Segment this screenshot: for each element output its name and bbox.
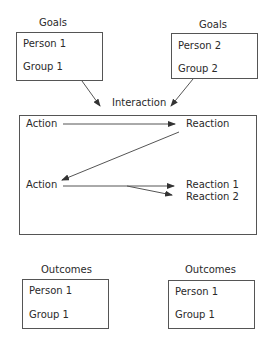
outcomes-box-2: Person 1 Group 1: [168, 280, 255, 329]
goals-1-line-1: Person 1: [23, 38, 66, 49]
goals-1-line-2: Group 1: [23, 61, 63, 72]
action-1: Action: [26, 118, 57, 129]
goals-2-line-1: Person 2: [178, 40, 221, 51]
action-2: Action: [26, 179, 57, 190]
goals-label-2: Goals: [199, 19, 227, 30]
outcomes-label-2: Outcomes: [185, 264, 236, 275]
goal1-arrow: [82, 81, 100, 106]
reaction: Reaction: [186, 118, 229, 129]
goals-box-2: Person 2 Group 2: [171, 33, 258, 79]
goal2-arrow: [171, 79, 193, 106]
reaction-2: Reaction 2: [186, 191, 239, 202]
goals-box-1: Person 1 Group 1: [16, 32, 103, 81]
goals-label-1: Goals: [39, 17, 67, 28]
outcomes-1-line-2: Group 1: [29, 309, 69, 320]
outcomes-label-1: Outcomes: [41, 264, 92, 275]
interaction-label: Interaction: [112, 97, 166, 108]
outcomes-2-line-2: Group 1: [175, 309, 215, 320]
outcomes-box-1: Person 1 Group 1: [22, 279, 109, 329]
goals-2-line-2: Group 2: [178, 63, 218, 74]
outcomes-1-line-1: Person 1: [29, 285, 72, 296]
outcomes-2-line-1: Person 1: [175, 286, 218, 297]
interaction-box: [19, 115, 257, 235]
reaction-1: Reaction 1: [186, 179, 239, 190]
